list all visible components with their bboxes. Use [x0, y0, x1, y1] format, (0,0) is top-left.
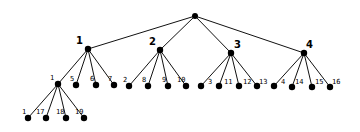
tree-edge [88, 16, 195, 49]
tree-nodes [25, 13, 333, 121]
node-label: 7 [108, 75, 112, 83]
node-label: 3 [208, 78, 212, 86]
node-label: 13 [259, 78, 267, 86]
node-label: 17 [36, 108, 44, 116]
tree-node [228, 50, 234, 56]
node-label: 1 [22, 108, 26, 116]
tree-node [216, 83, 222, 89]
tree-node [55, 81, 61, 87]
node-label: 15 [315, 78, 323, 86]
tree-edge [148, 50, 160, 86]
tree-edges [28, 16, 330, 118]
node-label: 10 [177, 76, 185, 84]
node-label: 4 [281, 78, 285, 86]
tree-node [192, 13, 198, 19]
node-label: 4 [306, 39, 313, 50]
tree-node [301, 50, 307, 56]
node-label: 18 [56, 108, 64, 116]
node-label: 9 [162, 76, 166, 84]
tree-diagram: 1234156728910311121341415161171819 [0, 0, 360, 132]
tree-edge [195, 16, 231, 53]
tree-diagram-svg: 1234156728910311121341415161171819 [0, 0, 360, 132]
tree-edge [195, 16, 304, 53]
node-label: 1 [76, 35, 83, 46]
node-label: 16 [332, 78, 340, 86]
node-label: 1 [50, 74, 54, 82]
node-label: 3 [234, 39, 241, 50]
tree-node [157, 47, 163, 53]
tree-labels: 1234156728910311121341415161171819 [22, 35, 340, 116]
node-label: 6 [90, 75, 94, 83]
node-label: 5 [70, 75, 74, 83]
node-label: 8 [142, 76, 146, 84]
node-label: 11 [224, 78, 232, 86]
tree-node [236, 83, 242, 89]
tree-node [85, 46, 91, 52]
node-label: 2 [149, 36, 156, 47]
node-label: 12 [243, 78, 251, 86]
tree-node [271, 83, 277, 89]
node-label: 2 [123, 76, 127, 84]
node-label: 19 [75, 108, 83, 116]
node-label: 14 [295, 78, 303, 86]
tree-node [198, 83, 204, 89]
tree-edge [76, 49, 88, 85]
